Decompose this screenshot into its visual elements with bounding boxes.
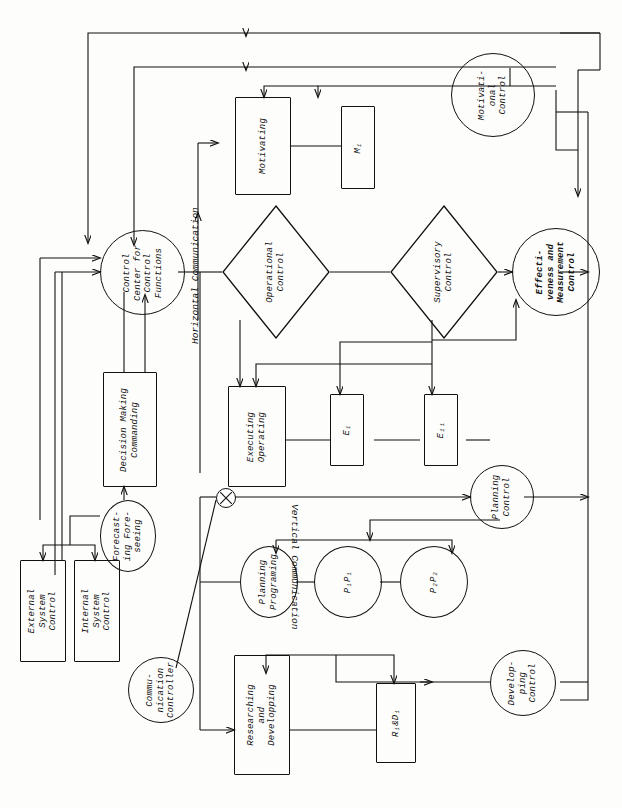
node-label: Planning Control <box>491 475 512 520</box>
node-label: Motivati- onal Control <box>477 70 509 120</box>
node-label: Supervisory Control <box>433 241 454 303</box>
node-label: External System Control <box>27 589 59 634</box>
node-p1p1[interactable]: P₁P₁ <box>314 546 382 618</box>
node-developping-control[interactable]: Develop- ping Control <box>490 650 556 716</box>
node-label: Operational Control <box>265 241 286 303</box>
node-external-system-control[interactable]: External System Control <box>20 560 66 662</box>
node-effectiveness-and-measurement-control[interactable]: Effecti- veness and Measurement Control <box>512 228 600 316</box>
node-motivational-control[interactable]: Motivati- onal Control <box>451 53 535 137</box>
node-label: P₂P₂ <box>429 571 440 593</box>
cross-junction-node[interactable] <box>216 488 236 508</box>
node-label: M₁ <box>353 142 364 153</box>
node-label: Effecti- veness and Measurement Control <box>535 241 577 303</box>
label-horizontal-communication: Horizontal Communication <box>190 207 201 344</box>
node-internal-system-control[interactable]: Internal System Control <box>74 560 120 662</box>
node-e1[interactable]: E₁ <box>330 394 364 466</box>
node-m1[interactable]: M₁ <box>341 106 375 189</box>
node-operational-control[interactable]: Operational Control <box>222 205 330 339</box>
node-label: Executing Operating <box>246 411 267 461</box>
node-researching-and-developping[interactable]: Researching and Developping <box>234 655 290 775</box>
diagram-canvas: Motivati- onal Control Motivating M₁ Con… <box>0 0 622 808</box>
node-r1d1[interactable]: R₁&D₁ <box>376 683 416 763</box>
node-label: R₁&D₁ <box>391 709 402 737</box>
node-motivating[interactable]: Motivating <box>235 97 291 195</box>
node-label: E₁ <box>342 424 353 435</box>
node-p2p2[interactable]: P₂P₂ <box>400 546 468 618</box>
node-label: Planning Programing <box>258 554 279 610</box>
node-control-center-for-control-functions[interactable]: Control Center for Control Functions <box>100 230 185 315</box>
node-executing-operating[interactable]: Executing Operating <box>228 386 286 487</box>
node-label: Control Center for Control Functions <box>121 244 163 300</box>
node-label: E₁₁ <box>436 422 447 439</box>
node-label: Develop- ping Control <box>507 661 539 706</box>
node-supervisory-control[interactable]: Supervisory Control <box>390 205 498 339</box>
node-communication-controller[interactable]: Commu- nication Controller <box>128 657 194 723</box>
cross-icon <box>217 489 235 507</box>
node-label: P₁P₁ <box>343 571 354 593</box>
node-label: Commu- nication Controller <box>145 662 177 718</box>
node-label: Researching and Developping <box>246 684 278 746</box>
node-label: Internal System Control <box>81 589 113 634</box>
node-label: Motivating <box>258 118 269 174</box>
node-label: Forecast- ing Fore- seeing <box>112 511 144 561</box>
label-vertical-communication: Vertical Communication <box>289 504 300 629</box>
node-planning-control[interactable]: Planning Control <box>470 465 534 529</box>
node-label: Decision Making Commanding <box>119 387 140 471</box>
node-decision-making-commanding[interactable]: Decision Making Commanding <box>103 372 157 487</box>
node-e11[interactable]: E₁₁ <box>424 394 458 466</box>
